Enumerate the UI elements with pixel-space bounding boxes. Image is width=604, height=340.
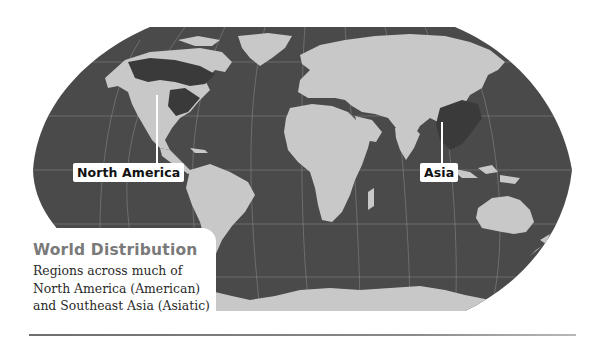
asia-leader-line [441,122,443,163]
caption-title: World Distribution [33,241,198,259]
north-america-label: North America [73,163,184,182]
caption-line: Regions across much of [33,262,210,280]
caption-line: and Southeast Asia (Asiatic) [33,297,210,315]
north-america-leader-line [156,95,158,163]
caption-line: North America (American) [33,280,210,298]
bottom-divider [29,334,576,336]
asia-label: Asia [420,163,458,182]
caption-body: Regions across much of North America (Am… [33,262,210,315]
